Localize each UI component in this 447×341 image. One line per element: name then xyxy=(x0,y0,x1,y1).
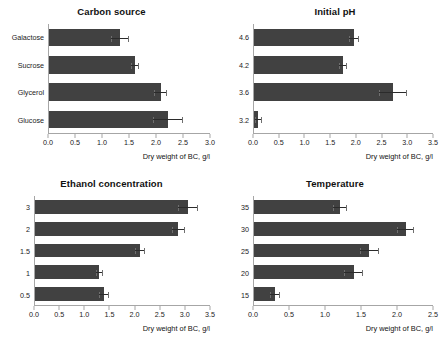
error-bar xyxy=(360,250,379,251)
error-bar-line xyxy=(255,119,262,120)
bar xyxy=(254,29,354,46)
y-tick-label: Sucrose xyxy=(2,52,44,80)
error-bar xyxy=(154,92,167,93)
y-tick-label: 0.5 xyxy=(0,284,30,306)
bar xyxy=(49,111,168,128)
error-bar-line xyxy=(360,250,379,251)
panel-temperature: Temperature 35 30 25 20 15 0.00.51.01.52… xyxy=(223,170,447,341)
y-tick-label: 3 xyxy=(0,196,30,218)
error-bar xyxy=(153,119,183,120)
bar xyxy=(254,56,343,73)
y-tick-label: 4.2 xyxy=(223,52,249,80)
x-tick-label: 1.0 xyxy=(79,310,89,319)
x-axis-title: Dry weight of BC, g/l xyxy=(60,324,210,333)
x-tick-label: 2.0 xyxy=(130,310,140,319)
bar-row xyxy=(49,51,210,78)
bar-row xyxy=(35,196,210,218)
error-bar xyxy=(255,119,262,120)
y-tick-label: 3.2 xyxy=(223,107,249,135)
x-axis-title: Dry weight of BC, g/l xyxy=(60,152,210,161)
bar-row xyxy=(254,196,433,218)
bar-row xyxy=(49,79,210,106)
y-tick-label: 35 xyxy=(223,196,249,218)
bar-rows xyxy=(254,24,433,133)
y-tick-label: Glucose xyxy=(2,107,44,135)
x-tick-label: 0.0 xyxy=(248,310,258,319)
error-bar-line xyxy=(349,38,359,39)
y-tick-label: 2 xyxy=(0,218,30,240)
x-tick-label: 3.5 xyxy=(205,310,215,319)
bar-rows xyxy=(254,196,433,305)
error-bar xyxy=(131,65,140,66)
bar-row xyxy=(49,106,210,133)
error-bar-line xyxy=(111,38,129,39)
bar xyxy=(254,200,340,214)
error-bar xyxy=(339,65,346,66)
x-tick-labels: 0.00.51.01.52.02.53.03.5 xyxy=(253,138,433,152)
x-tick-label: 1.0 xyxy=(320,310,330,319)
bar-row xyxy=(254,51,433,78)
x-tick-label: 1.5 xyxy=(104,310,114,319)
x-tick-labels: 0.00.51.01.52.02.53.03.5 xyxy=(34,310,210,324)
bar-row xyxy=(254,283,433,305)
panel-initial-ph: Initial pH 4.6 4.2 3.6 3.2 0.00.51.01.52… xyxy=(223,0,447,170)
x-tick-label: 1.5 xyxy=(325,138,335,147)
x-tick-label: 1.5 xyxy=(356,310,366,319)
error-bar xyxy=(178,207,198,208)
bar xyxy=(35,244,140,258)
error-bar-line xyxy=(153,119,183,120)
y-tick-label: 1 xyxy=(0,262,30,284)
bar xyxy=(254,83,393,100)
panel-title: Carbon source xyxy=(0,6,223,17)
bar xyxy=(35,222,178,236)
error-bar xyxy=(344,272,363,273)
bar-row xyxy=(254,106,433,133)
y-tick-label: 15 xyxy=(223,284,249,306)
bar-row xyxy=(254,240,433,262)
bar xyxy=(254,265,354,279)
x-axis-title: Dry weight of BC, g/l xyxy=(283,152,433,161)
x-tick-label: 2.5 xyxy=(155,310,165,319)
y-tick-labels: Galactose Sucrose Glycerol Glucose xyxy=(2,24,48,134)
x-tick-label: 3.0 xyxy=(180,310,190,319)
x-axis-title: Dry weight of BC, g/l xyxy=(283,324,433,333)
y-tick-labels: 4.6 4.2 3.6 3.2 xyxy=(223,24,253,134)
y-tick-label: 4.6 xyxy=(223,24,249,52)
error-bar-line xyxy=(397,229,414,230)
panel-carbon-source: Carbon source Galactose Sucrose Glycerol… xyxy=(0,0,223,170)
x-tick-label: 2.0 xyxy=(392,310,402,319)
bar xyxy=(35,265,99,279)
y-tick-label: 20 xyxy=(223,262,249,284)
error-bar-line xyxy=(339,65,346,66)
bar-row xyxy=(35,240,210,262)
error-bar xyxy=(379,92,408,93)
x-tick-label: 0.5 xyxy=(70,138,80,147)
x-tick-label: 3.5 xyxy=(428,138,438,147)
x-tick-label: 1.5 xyxy=(124,138,134,147)
y-tick-label: Galactose xyxy=(2,24,44,52)
x-tick-label: 3.0 xyxy=(402,138,412,147)
panel-title: Initial pH xyxy=(223,6,447,17)
error-bar xyxy=(333,207,347,208)
bar-rows xyxy=(35,196,210,305)
bar-rows xyxy=(49,24,210,133)
error-bar xyxy=(99,294,109,295)
bar-row xyxy=(254,24,433,51)
bar-row xyxy=(254,79,433,106)
y-tick-label: 3.6 xyxy=(223,79,249,107)
bar xyxy=(49,83,161,100)
bar-row xyxy=(254,218,433,240)
y-tick-labels: 35 30 25 20 15 xyxy=(223,196,253,306)
x-tick-label: 0.0 xyxy=(248,138,258,147)
x-tick-label: 1.0 xyxy=(97,138,107,147)
plot-area xyxy=(34,196,210,306)
plot-area xyxy=(48,24,210,134)
x-tick-labels: 0.00.51.01.52.02.5 xyxy=(253,310,433,324)
bar xyxy=(49,56,135,73)
error-bar-line xyxy=(135,250,145,251)
error-bar-line xyxy=(379,92,408,93)
bar xyxy=(254,222,406,236)
x-tick-label: 0.0 xyxy=(43,138,53,147)
x-tick-label: 0.5 xyxy=(284,310,294,319)
x-tick-label: 2.5 xyxy=(428,310,438,319)
